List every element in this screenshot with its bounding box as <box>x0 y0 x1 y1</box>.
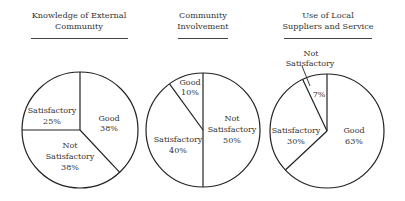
slice-pct-not-satisfactory: 7% <box>313 90 326 99</box>
slice-pct-satisfactory: 30% <box>287 137 305 146</box>
slice-label-good: Good <box>179 78 200 87</box>
slice-label-not-satisfactory: Satisfactory <box>286 59 335 68</box>
slice-label-not-satisfactory: Satisfactory <box>46 152 95 161</box>
slice-pct-good: 10% <box>181 88 199 97</box>
slice-label-satisfactory: Satisfactory <box>154 135 203 144</box>
pie-charts: Good 38% Satisfactory 25% Not Satisfacto… <box>0 0 405 201</box>
slice-pct-not-satisfactory: 50% <box>223 136 241 145</box>
slice-label-not: Not <box>62 141 78 150</box>
slice-pct-not-satisfactory: 38% <box>61 163 79 172</box>
slice-pct-satisfactory: 25% <box>43 117 61 126</box>
slice-pct-good: 38% <box>100 124 118 133</box>
slice-label-good: Good <box>343 126 364 135</box>
slice-pct-satisfactory: 40% <box>169 146 187 155</box>
slice-label-satisfactory: Satisfactory <box>28 106 77 115</box>
slice-label-not: Not <box>303 49 319 58</box>
slice-label-satisfactory: Satisfactory <box>272 126 321 135</box>
slice-label-not: Not <box>224 114 240 123</box>
slice-pct-good: 63% <box>345 137 363 146</box>
pie-knowledge <box>22 72 138 188</box>
slice-label-good: Good <box>98 114 119 123</box>
slice-label-not-satisfactory: Satisfactory <box>208 125 257 134</box>
